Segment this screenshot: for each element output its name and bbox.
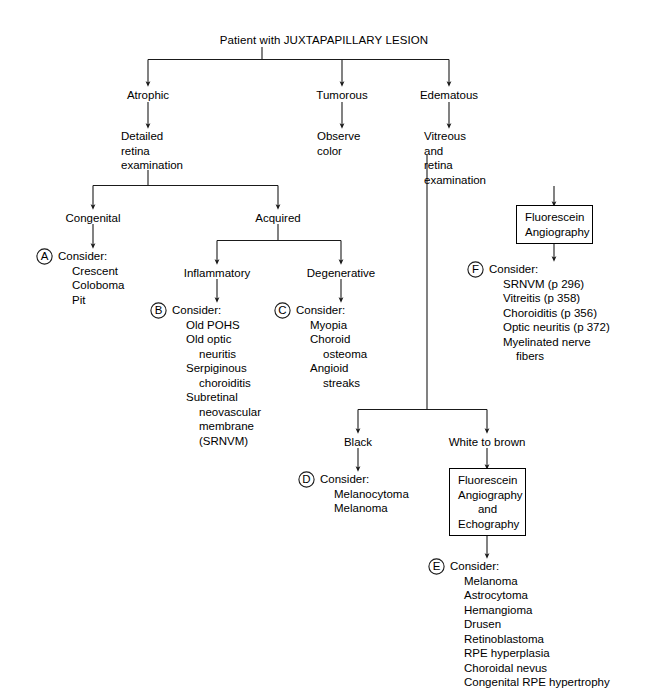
marker-f-icon: F — [467, 261, 484, 278]
marker-a-letter: A — [41, 250, 49, 262]
consider-heading: Consider: — [450, 559, 610, 574]
consider-item: neovascular — [172, 405, 261, 420]
consider-item: Melanoma — [320, 501, 409, 516]
consider-item: RPE hyperplasia — [450, 646, 610, 661]
consider-item: Myelinated nerve — [489, 335, 610, 350]
consider-item: Choroiditis (p 356) — [489, 306, 610, 321]
consider-item: Choroidal nevus — [450, 661, 610, 676]
marker-c-letter: C — [278, 304, 286, 316]
consider-heading: Consider: — [489, 262, 610, 277]
consider-item: SRNVM (p 296) — [489, 277, 610, 292]
node-vitreous-and-retina-examination: Vitreous and retina examination — [424, 129, 486, 187]
consider-item: choroiditis — [172, 376, 261, 391]
marker-d-letter: D — [302, 473, 310, 485]
node-tumorous: Tumorous — [316, 88, 367, 103]
node-edematous: Edematous — [420, 88, 478, 103]
node-atrophic: Atrophic — [127, 88, 169, 103]
node-observe-color: Observe color — [317, 129, 360, 158]
consider-item: Melanoma — [450, 574, 610, 589]
consider-item: neuritis — [172, 347, 261, 362]
consider-item: Serpiginous — [172, 361, 261, 376]
consider-item: (SRNVM) — [172, 434, 261, 449]
consider-item: Pit — [58, 293, 124, 308]
consider-item: Retinoblastoma — [450, 632, 610, 647]
consider-item: Subretinal — [172, 390, 261, 405]
marker-c-icon: C — [274, 302, 291, 319]
consider-item: Melanocytoma — [320, 487, 409, 502]
consider-block-c: Consider:MyopiaChoroidosteomaAngioidstre… — [296, 303, 367, 390]
consider-item: Drusen — [450, 617, 610, 632]
consider-item: Old optic — [172, 332, 261, 347]
consider-item: Choroid — [296, 332, 367, 347]
consider-item: Astrocytoma — [450, 588, 610, 603]
marker-a-icon: A — [36, 248, 53, 265]
consider-block-a: Consider:CrescentColobomaPit — [58, 249, 124, 307]
consider-heading: Consider: — [172, 303, 261, 318]
marker-b-letter: B — [155, 304, 163, 316]
consider-block-d: Consider:MelanocytomaMelanoma — [320, 472, 409, 516]
page-title: Patient with JUXTAPAPILLARY LESION — [220, 33, 428, 48]
node-inflammatory: Inflammatory — [184, 266, 250, 281]
consider-heading: Consider: — [296, 303, 367, 318]
marker-d-icon: D — [298, 471, 315, 488]
node-congenital: Congenital — [66, 211, 121, 226]
node-acquired: Acquired — [255, 211, 300, 226]
marker-e-letter: E — [433, 560, 441, 572]
consider-item: osteoma — [296, 347, 367, 362]
consider-item: streaks — [296, 376, 367, 391]
consider-item: Vitreitis (p 358) — [489, 291, 610, 306]
box-fluorescein-angiography-and-echography: Fluorescein Angiography and Echography — [449, 468, 526, 536]
consider-item: Crescent — [58, 264, 124, 279]
consider-item: fibers — [489, 349, 610, 364]
consider-heading: Consider: — [320, 472, 409, 487]
consider-block-f: Consider:SRNVM (p 296)Vitreitis (p 358)C… — [489, 262, 610, 364]
consider-item: Old POHS — [172, 318, 261, 333]
node-white-to-brown: White to brown — [449, 435, 526, 450]
marker-f-letter: F — [472, 263, 479, 275]
node-degenerative: Degenerative — [307, 266, 375, 281]
consider-item: Optic neuritis (p 372) — [489, 320, 610, 335]
box-fluorescein-angiography: Fluorescein Angiography — [516, 205, 593, 244]
consider-item: Myopia — [296, 318, 367, 333]
marker-b-icon: B — [150, 302, 167, 319]
consider-item: membrane — [172, 419, 261, 434]
consider-item: Coloboma — [58, 278, 124, 293]
consider-block-e: Consider:MelanomaAstrocytomaHemangiomaDr… — [450, 559, 610, 690]
consider-item: Angioid — [296, 361, 367, 376]
node-detailed-retina-examination: Detailed retina examination — [121, 129, 183, 173]
marker-e-icon: E — [428, 558, 445, 575]
node-black: Black — [344, 435, 372, 450]
consider-item: Hemangioma — [450, 603, 610, 618]
consider-item: Congenital RPE hypertrophy — [450, 675, 610, 690]
consider-block-b: Consider:Old POHSOld opticneuritisSerpig… — [172, 303, 261, 448]
consider-heading: Consider: — [58, 249, 124, 264]
flowchart-diagram: Patient with JUXTAPAPILLARY LESION Atrop… — [0, 0, 649, 700]
